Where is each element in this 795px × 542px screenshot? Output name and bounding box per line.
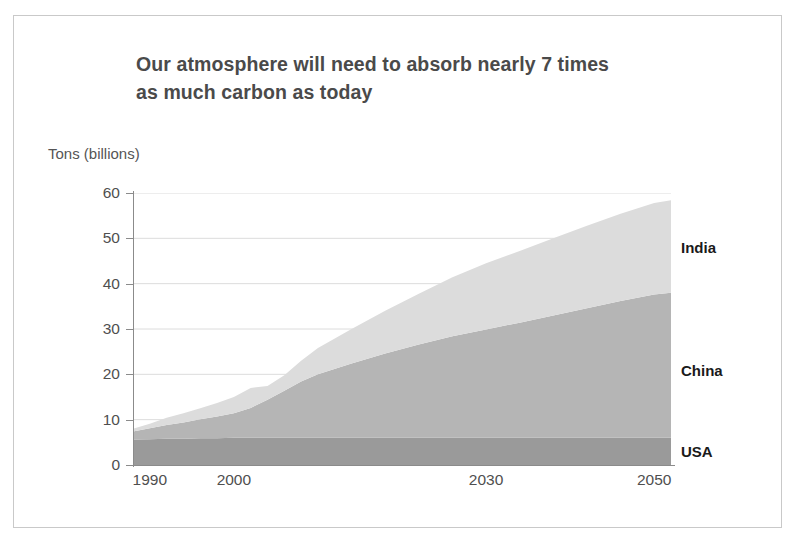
y-tick-label: 0 <box>74 456 120 474</box>
y-tick-mark <box>126 193 134 194</box>
chart-title: Our atmosphere will need to absorb nearl… <box>136 50 696 107</box>
y-tick-label: 30 <box>74 320 120 338</box>
x-axis-line <box>129 465 675 466</box>
y-tick-mark <box>126 238 134 239</box>
x-tick-label: 2000 <box>217 471 251 489</box>
chart-page: Our atmosphere will need to absorb nearl… <box>0 0 795 542</box>
x-tick-label: 2030 <box>469 471 503 489</box>
chart-title-line-1: Our atmosphere will need to absorb nearl… <box>136 50 696 78</box>
x-tick-label: 2050 <box>637 471 671 489</box>
y-tick-label: 40 <box>74 275 120 293</box>
legend-label-usa: USA <box>681 443 713 460</box>
y-tick-mark <box>126 329 134 330</box>
chart-title-line-2: as much carbon as today <box>136 78 696 106</box>
plot-area <box>133 193 671 465</box>
legend-label-india: India <box>681 239 716 256</box>
y-axis-title: Tons (billions) <box>48 145 140 162</box>
legend-label-china: China <box>681 361 723 378</box>
y-tick-label: 20 <box>74 365 120 383</box>
y-tick-label: 10 <box>74 411 120 429</box>
y-tick-label: 50 <box>74 229 120 247</box>
y-tick-mark <box>126 420 134 421</box>
area-series-usa <box>133 438 671 465</box>
y-tick-mark <box>126 374 134 375</box>
y-tick-label: 60 <box>74 184 120 202</box>
x-tick-label: 1990 <box>133 471 167 489</box>
stacked-area-chart <box>133 193 671 465</box>
y-tick-mark <box>126 465 134 466</box>
y-tick-mark <box>126 284 134 285</box>
